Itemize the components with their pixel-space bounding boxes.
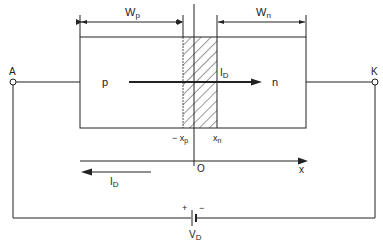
wn-dimension: Wn xyxy=(217,6,306,37)
battery-minus-label: − xyxy=(199,203,204,213)
terminal-a: A xyxy=(9,66,16,85)
n-region-label: n xyxy=(272,76,278,88)
pn-junction-diagram: Wp Wn p n ID A K xyxy=(0,0,383,248)
terminal-k: K xyxy=(371,66,378,85)
current-arrow-bottom: ID xyxy=(81,169,151,190)
voltage-label: VD xyxy=(189,229,202,242)
minus-xp-label: − xp xyxy=(172,133,188,145)
origin-label: O xyxy=(197,163,205,174)
xn-label: xn xyxy=(213,133,222,144)
wn-label: Wn xyxy=(256,6,271,20)
current-top-label: ID xyxy=(220,67,229,80)
battery-vd: + − VD xyxy=(182,203,204,242)
p-region-label: p xyxy=(102,76,108,88)
current-bottom-label: ID xyxy=(110,176,119,189)
wp-dimension: Wp xyxy=(80,6,183,37)
battery-plus-label: + xyxy=(182,203,187,213)
terminal-a-label: A xyxy=(9,66,16,77)
wp-label: Wp xyxy=(125,6,140,20)
terminal-k-label: K xyxy=(371,66,378,77)
x-axis-label: x xyxy=(299,164,304,175)
